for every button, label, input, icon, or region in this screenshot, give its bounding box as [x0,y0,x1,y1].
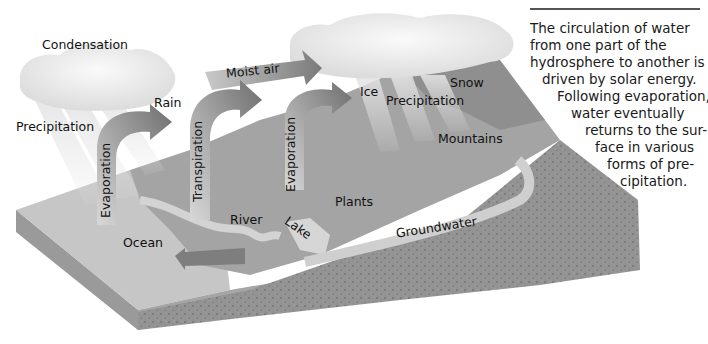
label-evaporation-middle: Evaporation [283,117,298,192]
label-evaporation-left: Evaporation [98,143,113,218]
cloud-left [20,43,176,111]
label-mountains: Mountains [438,132,503,146]
caption-line: hydrosphere to another is [530,54,700,71]
label-river: River [230,213,262,227]
caption-line: Following evaporation, [530,88,700,105]
label-precipitation-left: Precipitation [16,120,94,134]
label-ocean: Ocean [123,236,163,250]
label-condensation: Condensation [42,38,128,52]
label-transpiration: Transpiration [190,121,205,202]
caption-line: driven by solar energy. [530,71,700,88]
caption-rule [530,8,700,10]
caption-line: cipitation. [530,173,700,190]
label-ice: Ice [360,85,378,99]
caption-line: water eventually [530,105,700,122]
caption-line: returns to the sur- [530,122,700,139]
caption-line: The circulation of water [530,20,700,37]
label-snow: Snow [450,76,484,90]
label-plants: Plants [335,195,373,209]
label-rain: Rain [154,96,181,110]
water-cycle-diagram: Condensation Precipitation Rain Moist ai… [0,0,708,344]
figure-caption: The circulation of water from one part o… [530,20,700,190]
caption-line: from one part of the [530,37,700,54]
caption-line: face in various [530,139,700,156]
caption-line: forms of pre- [530,156,700,173]
label-precipitation-right: Precipitation [386,94,464,108]
